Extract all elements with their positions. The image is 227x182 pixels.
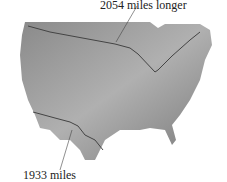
us-landmass [20,22,212,160]
us-relief-map [0,0,227,182]
north-border-label: 2054 miles longer [100,0,187,13]
south-border-label: 1933 miles [23,168,76,182]
